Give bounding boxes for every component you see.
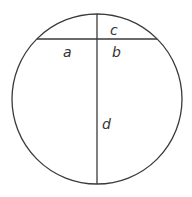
label-c: c <box>110 22 118 38</box>
label-b: b <box>112 44 121 60</box>
label-d: d <box>102 116 111 132</box>
circle-chords-diagram: c a b d <box>0 0 192 197</box>
label-a: a <box>63 44 72 60</box>
